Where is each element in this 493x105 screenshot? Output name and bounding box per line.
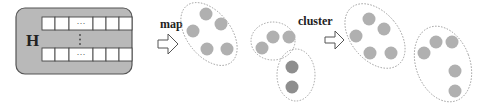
- cluster-group-1: [333, 0, 417, 80]
- mapped-group-1: [169, 0, 248, 76]
- matrix-h: H ··· ···: [16, 8, 132, 74]
- cluster-label: cluster: [298, 14, 333, 28]
- top-row-ellipsis: ···: [77, 18, 86, 28]
- map-label: map: [160, 17, 183, 31]
- matrix-bottom-row: [42, 48, 132, 61]
- matrix-top-row: [42, 17, 132, 30]
- clustering-diagram: H ··· ··· map: [0, 0, 493, 105]
- map-arrow-icon: [158, 34, 178, 54]
- bottom-row-ellipsis: ···: [77, 49, 86, 59]
- matrix-label: H: [26, 31, 39, 50]
- mapped-group-2: [251, 22, 296, 60]
- cluster-arrow-icon: [325, 31, 344, 49]
- cluster-group-2: [404, 18, 481, 105]
- mapped-group-3: [277, 49, 315, 101]
